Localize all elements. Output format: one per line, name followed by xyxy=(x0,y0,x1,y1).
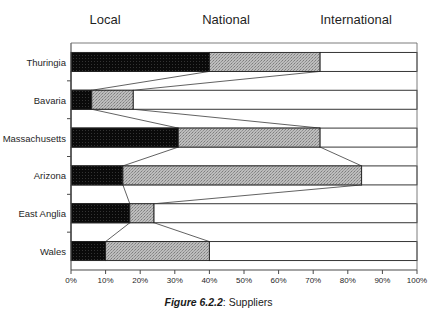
caption-text: Suppliers xyxy=(229,296,273,308)
figure-container: Local National International ThuringiaBa… xyxy=(0,0,437,318)
tick-label: 40% xyxy=(201,276,217,286)
figure-caption: Figure 6.2.2: Suppliers xyxy=(0,296,437,309)
tick-label: 100% xyxy=(407,276,427,286)
category-label: Wales xyxy=(40,246,66,257)
stacked-bar-chart xyxy=(0,0,437,318)
tick-label: 80% xyxy=(340,276,356,286)
tick-label: 90% xyxy=(374,276,390,286)
tick-label: 30% xyxy=(167,276,183,286)
caption-number: Figure 6.2.2 xyxy=(165,296,223,308)
tick-label: 60% xyxy=(271,276,287,286)
category-label: Bavaria xyxy=(34,94,66,105)
axis-ticks xyxy=(71,270,417,274)
tick-label: 0% xyxy=(65,276,77,286)
tick-label: 20% xyxy=(132,276,148,286)
category-label: East Anglia xyxy=(18,208,66,219)
tick-label: 10% xyxy=(98,276,114,286)
category-label: Massachusetts xyxy=(3,132,66,143)
tick-label: 70% xyxy=(305,276,321,286)
category-label: Arizona xyxy=(34,170,66,181)
bar-group xyxy=(71,52,417,260)
category-label: Thuringia xyxy=(26,56,66,67)
plot-frame xyxy=(67,43,417,270)
tick-label: 50% xyxy=(236,276,252,286)
